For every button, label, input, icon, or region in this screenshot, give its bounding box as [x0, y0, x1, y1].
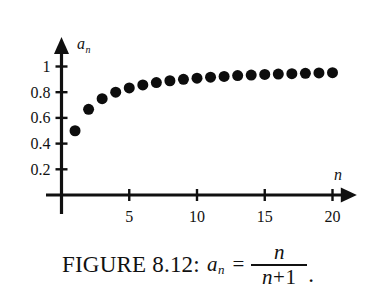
data-point: [286, 68, 297, 79]
x-tick-label-10: 10: [189, 208, 205, 225]
y-tick-label-0.6: 0.6: [31, 109, 51, 126]
denominator-variable: n: [262, 265, 273, 289]
axes-layer: [46, 37, 357, 214]
data-point: [164, 75, 175, 86]
data-point: [70, 125, 81, 136]
data-point: [232, 70, 243, 81]
y-axis-label: an: [77, 35, 91, 55]
y-axis-arrowhead: [54, 37, 69, 54]
x-tick-label-15: 15: [257, 208, 273, 225]
data-point: [83, 104, 94, 115]
fraction-numerator: n: [268, 242, 291, 264]
denominator-operator: +: [273, 265, 285, 289]
data-point: [97, 93, 108, 104]
sequence-plot: 51015200.20.40.60.81 ann: [0, 0, 376, 232]
data-point: [273, 69, 284, 80]
data-point: [246, 70, 257, 81]
y-tick-label-0.8: 0.8: [31, 84, 51, 101]
x-axis-label: n: [334, 166, 342, 183]
data-point: [327, 67, 338, 78]
data-point: [110, 87, 121, 98]
figure-caption: FIGURE 8.12: an = n n+1 .: [0, 231, 376, 299]
y-tick-label-1: 1: [43, 58, 51, 75]
caption-period: .: [307, 263, 314, 288]
data-point: [137, 79, 148, 90]
denominator-constant: 1: [285, 265, 296, 289]
data-point: [124, 82, 135, 93]
caption-label: FIGURE 8.12:: [62, 253, 200, 276]
caption-row: FIGURE 8.12: an = n n+1 .: [62, 242, 314, 288]
data-point: [313, 67, 324, 78]
data-point: [205, 72, 216, 83]
data-point: [192, 73, 203, 84]
data-point: [219, 71, 230, 82]
data-point: [259, 69, 270, 80]
fraction-denominator: n+1: [258, 266, 300, 288]
figure-container: 51015200.20.40.60.81 ann FIGURE 8.12: an…: [0, 0, 376, 299]
data-point: [300, 68, 311, 79]
data-point: [178, 74, 189, 85]
x-tick-label-5: 5: [125, 208, 133, 225]
data-points-layer: [70, 67, 338, 136]
caption-sequence-symbol: an: [207, 254, 225, 277]
data-point: [151, 77, 162, 88]
y-tick-label-0.2: 0.2: [31, 161, 51, 178]
caption-symbol-subscript: n: [217, 262, 224, 277]
caption-fraction: n n+1: [251, 242, 307, 288]
x-tick-label-20: 20: [325, 208, 341, 225]
x-axis-arrowhead: [341, 188, 357, 203]
ticks-layer: [56, 67, 333, 202]
caption-symbol-base: a: [207, 252, 218, 276]
y-tick-label-0.4: 0.4: [31, 135, 51, 152]
caption-equals-sign: =: [224, 254, 251, 275]
axis-names-layer: ann: [77, 35, 342, 183]
